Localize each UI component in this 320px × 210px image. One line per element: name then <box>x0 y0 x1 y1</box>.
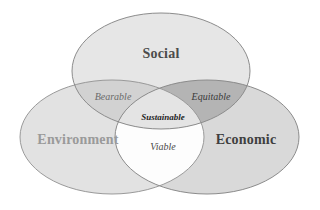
venn-diagram-canvas: Social Environment Economic Bearable Equ… <box>0 0 320 210</box>
set-label-economic: Economic <box>216 132 277 147</box>
set-label-environment: Environment <box>37 132 118 147</box>
set-label-social: Social <box>143 46 180 61</box>
intersection-label-equitable: Equitable <box>191 91 231 102</box>
intersection-label-bearable: Bearable <box>95 91 132 102</box>
intersection-label-sustainable: Sustainable <box>141 112 185 122</box>
venn-diagram-figure: Social Environment Economic Bearable Equ… <box>0 0 320 210</box>
intersection-label-viable: Viable <box>150 141 176 152</box>
